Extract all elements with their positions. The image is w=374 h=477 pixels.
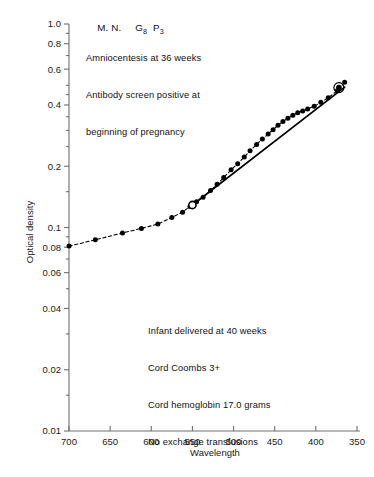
lower-note-line: No exchange transfusions [148, 436, 271, 448]
data-point [155, 222, 160, 227]
open-circle-anchor-marker [189, 201, 196, 208]
x-tick-label: 700 [61, 436, 77, 447]
y-tick-label: 0.06 [43, 267, 62, 278]
lower-note-line: Cord hemoglobin 17.0 grams [148, 399, 271, 411]
upper-note-line: beginning of pregnancy [86, 126, 201, 138]
data-point [235, 161, 240, 166]
data-point [242, 155, 247, 160]
y-axis-title: Optical density [24, 201, 35, 264]
data-point [290, 113, 295, 118]
y-tick-label: 1.0 [48, 18, 61, 29]
data-point [280, 119, 285, 124]
data-point [271, 127, 276, 132]
data-point [93, 237, 98, 242]
data-point [139, 226, 144, 231]
y-tick-label: 0.6 [48, 64, 61, 75]
ringed-endpoint-core [336, 85, 342, 91]
y-axis-ticks: 1.00.80.60.40.20.10.080.060.040.020.01 [43, 18, 70, 436]
data-point [229, 167, 234, 172]
data-point [248, 148, 253, 153]
data-point [260, 137, 265, 142]
upper-note-line: Amniocentesis at 36 weeks [86, 52, 201, 64]
x-tick-label: 650 [102, 436, 118, 447]
data-point [67, 244, 72, 249]
x-tick-label: 350 [349, 436, 365, 447]
upper-note-line: Antibody screen positive at [86, 89, 201, 101]
data-point [312, 104, 317, 109]
y-tick-label: 0.2 [48, 161, 61, 172]
y-tick-label: 0.1 [48, 222, 61, 233]
lower-note-line: Cord Coombs 3+ [148, 362, 271, 374]
data-point [285, 116, 290, 121]
y-tick-label: 0.8 [48, 38, 61, 49]
data-point [276, 123, 281, 128]
y-tick-label: 0.01 [43, 425, 62, 436]
x-tick-label: 400 [308, 436, 324, 447]
baseline-straight-line [192, 87, 344, 205]
y-tick-label: 0.02 [43, 364, 62, 375]
data-point [305, 107, 310, 112]
data-point [180, 210, 185, 215]
chart-figure: 1.00.80.60.40.20.10.080.060.040.020.01 7… [0, 0, 374, 477]
data-point [169, 215, 174, 220]
data-point [120, 230, 125, 235]
y-tick-label: 0.08 [43, 242, 62, 253]
lower-note-line: Infant delivered at 40 weeks [148, 325, 271, 337]
data-point [300, 108, 305, 113]
upper-clinical-note: Amniocentesis at 36 weeks Antibody scree… [86, 27, 201, 163]
data-point [266, 132, 271, 137]
data-point [295, 110, 300, 115]
data-point [254, 142, 259, 147]
y-tick-label: 0.04 [43, 303, 62, 314]
lower-clinical-note: Infant delivered at 40 weeks Cord Coombs… [148, 300, 271, 474]
y-tick-label: 0.4 [48, 99, 61, 110]
